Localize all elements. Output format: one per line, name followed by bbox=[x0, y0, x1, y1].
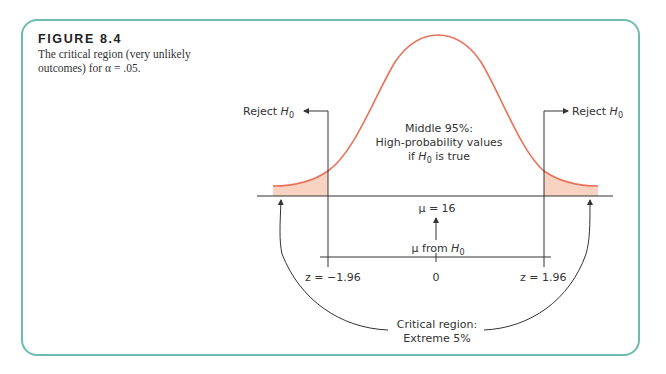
reject-left-label: Reject H0 bbox=[243, 105, 294, 120]
mu-value-label: μ = 16 bbox=[418, 202, 455, 215]
critical-region-line-1: Critical region: bbox=[397, 318, 477, 331]
z-left-label: z = −1.96 bbox=[305, 271, 361, 284]
critical-arrow-right bbox=[484, 200, 590, 330]
z-right-label: z = 1.96 bbox=[520, 271, 566, 284]
critical-region-line-2: Extreme 5% bbox=[403, 332, 470, 345]
middle-label-line-1: Middle 95%: bbox=[405, 122, 473, 135]
normal-distribution-diagram: Reject H0 Reject H0 Middle 95%: High-pro… bbox=[0, 0, 666, 374]
critical-arrow-left bbox=[280, 200, 388, 330]
middle-label-line-2: High-probability values bbox=[375, 136, 502, 149]
mu-from-h0-label: μ from H0 bbox=[412, 242, 465, 257]
reject-right-label: Reject H0 bbox=[572, 105, 623, 120]
middle-label-line-3: if H0 is true bbox=[408, 150, 470, 165]
z-center-label: 0 bbox=[433, 271, 440, 284]
